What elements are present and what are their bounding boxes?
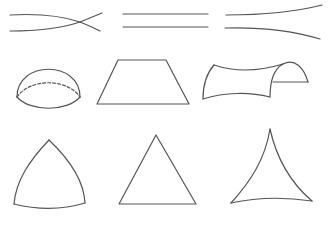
saddle-surface	[203, 62, 308, 99]
converging-lines	[10, 13, 102, 31]
flat-plane	[97, 60, 189, 104]
diagram-svg	[0, 0, 328, 227]
hyperbolic-triangle	[231, 129, 312, 203]
geometry-comparison-diagram	[0, 0, 328, 227]
euclidean-triangle	[119, 135, 196, 204]
parallel-lines	[123, 14, 208, 27]
diverging-lines	[225, 5, 322, 39]
spherical-triangle	[14, 140, 85, 208]
hemisphere	[17, 69, 80, 108]
